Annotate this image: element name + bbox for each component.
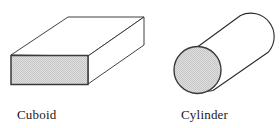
cuboid-front-face <box>11 56 88 85</box>
cylinder-end-face <box>174 47 221 94</box>
geometry-figure-panel: Cuboid Cylinder <box>0 0 280 128</box>
cylinder-shape <box>174 13 274 93</box>
cuboid-shape <box>11 17 144 85</box>
cuboid-label: Cuboid <box>17 108 56 121</box>
cylinder-label: Cylinder <box>181 108 228 121</box>
